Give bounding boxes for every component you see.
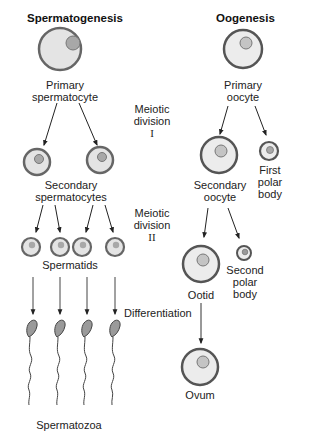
second-polar-body-label: Second polar body [226,264,264,300]
secondary-spermatocyte-cell [87,147,113,173]
oogenesis-title: Oogenesis [216,12,275,24]
secondary-oocyte-cell [201,137,237,173]
ovum-cell [182,349,218,385]
spermatozoon [110,320,120,405]
primary-spermatocyte-cell [39,28,81,70]
label-line: body [253,188,287,200]
label-line: Second [226,264,264,276]
spermatid-cell [51,238,69,256]
label-line: I [130,127,174,139]
secondary-spermatocyte-cell [24,149,50,175]
secondary-spermatocytes-label: Secondary spermatocytes [28,179,114,203]
primary-oocyte-cell [224,30,262,68]
label-line: II [130,231,174,243]
label-line: Primary [30,79,100,91]
secondary-oocyte-label: Secondary oocyte [190,179,250,203]
label-line: Primary [215,79,271,91]
spermatid-cell [106,238,124,256]
spermatozoa-label: Spermatozoa [34,419,104,431]
spermatid-cell [22,238,40,256]
ootid-label: Ootid [181,289,221,301]
second-polar-body-cell [237,246,251,260]
primary-oocyte-label: Primary oocyte [215,79,271,103]
spermatids-label: Spermatids [40,259,100,271]
label-line: polar [253,176,287,188]
spermatozoon [82,320,92,405]
spermatid-cell [73,238,91,256]
label-line: polar [226,276,264,288]
label-line: First [253,164,287,176]
label-line: Meiotic [130,207,174,219]
meiotic-division-1-label: Meiotic division I [130,103,174,139]
label-line: division [130,115,174,127]
spermatozoon [55,320,65,405]
first-polar-body-label: First polar body [253,164,287,200]
label-line: spermatocytes [28,191,114,203]
label-line: Secondary [28,179,114,191]
differentiation-label: Differentiation [124,307,192,319]
meiotic-division-2-label: Meiotic division II [130,207,174,243]
ootid-cell [183,246,219,282]
primary-spermatocyte-label: Primary spermatocyte [30,79,100,103]
label-line: spermatocyte [30,91,100,103]
spermatogenesis-title: Spermatogenesis [27,12,123,24]
label-line: Secondary [190,179,250,191]
label-line: body [226,288,264,300]
spermatozoon [27,320,37,405]
label-line: division [130,219,174,231]
label-line: Meiotic [130,103,174,115]
label-line: oocyte [190,191,250,203]
ovum-label: Ovum [180,389,220,401]
first-polar-body-cell [260,142,278,160]
label-line: oocyte [215,91,271,103]
